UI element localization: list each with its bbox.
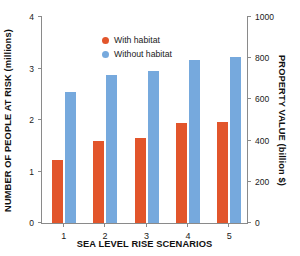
- x-axis-tick: 4: [187, 223, 188, 227]
- y-axis-right-tick: 800: [247, 57, 251, 58]
- bar-with-habitat[interactable]: [217, 122, 228, 223]
- y-axis-right-tick: 400: [247, 140, 251, 141]
- y-axis-right-tick-label: 800: [255, 53, 269, 63]
- y-axis-right-tick-label: 1000: [255, 12, 274, 22]
- x-axis-tick: 5: [228, 223, 229, 227]
- legend-item[interactable]: With habitat: [102, 35, 172, 45]
- legend-marker-circle-icon: [102, 51, 109, 58]
- x-axis-tick: 2: [104, 223, 105, 227]
- y-axis-right-title: PROPERTY VALUE (billion $): [277, 17, 288, 224]
- y-axis-left-tick-label: 0: [29, 218, 34, 228]
- y-axis-left-tick: 4: [38, 16, 42, 17]
- y-axis-left-tick-label: 2: [29, 115, 34, 125]
- y-axis-right-tick-label: 200: [255, 177, 269, 187]
- y-axis-left-tick-label: 1: [29, 167, 34, 177]
- y-axis-right-tick: 1000: [247, 16, 251, 17]
- legend-label: With habitat: [114, 35, 160, 45]
- y-axis-left-tick: 2: [38, 119, 42, 120]
- y-axis-left-title: NUMBER OF PEOPLE AT RISK (millions): [2, 17, 13, 224]
- bar-with-habitat[interactable]: [52, 160, 63, 223]
- y-axis-right-tick: 0: [247, 222, 251, 223]
- bar-without-habitat[interactable]: [189, 60, 200, 223]
- y-axis-right-tick-label: 600: [255, 94, 269, 104]
- y-axis-right-tick-label: 0: [255, 218, 260, 228]
- x-axis-tick-label: 2: [103, 231, 108, 241]
- x-axis-tick: 3: [146, 223, 147, 227]
- y-axis-left-tick-label: 3: [29, 64, 34, 74]
- bar-group: [50, 17, 76, 223]
- x-axis-tick: 1: [63, 223, 64, 227]
- bar-without-habitat[interactable]: [148, 71, 159, 223]
- x-axis-tick-label: 5: [227, 231, 232, 241]
- x-axis-tick-label: 1: [61, 231, 66, 241]
- x-axis-tick-label: 4: [185, 231, 190, 241]
- bar-group: [215, 17, 241, 223]
- legend-marker-circle-icon: [102, 37, 109, 44]
- y-axis-left-tick: 0: [38, 222, 42, 223]
- bar-without-habitat[interactable]: [106, 75, 117, 223]
- y-axis-left-tick-label: 4: [29, 12, 34, 22]
- y-axis-right-tick: 600: [247, 98, 251, 99]
- chart-figure: NUMBER OF PEOPLE AT RISK (millions) PROP…: [0, 0, 300, 256]
- x-axis-tick-label: 3: [144, 231, 149, 241]
- y-axis-left-tick: 1: [38, 171, 42, 172]
- bar-with-habitat[interactable]: [93, 141, 104, 223]
- bar-without-habitat[interactable]: [65, 92, 76, 223]
- bar-with-habitat[interactable]: [135, 138, 146, 223]
- y-axis-left-tick: 3: [38, 68, 42, 69]
- bar-without-habitat[interactable]: [230, 57, 241, 223]
- bar-with-habitat[interactable]: [176, 123, 187, 223]
- legend-item[interactable]: Without habitat: [102, 49, 172, 59]
- bar-group: [174, 17, 200, 223]
- chart-legend: With habitatWithout habitat: [102, 35, 172, 63]
- y-axis-right-tick-label: 400: [255, 136, 269, 146]
- legend-label: Without habitat: [114, 49, 172, 59]
- y-axis-right-tick: 200: [247, 181, 251, 182]
- plot-area: 01234 02004006008001000 12345 With habit…: [41, 17, 248, 224]
